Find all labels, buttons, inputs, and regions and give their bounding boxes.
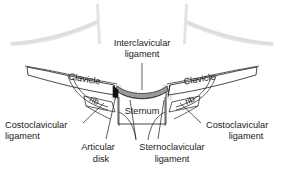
label-sternoclavicular-line2: ligament xyxy=(155,154,190,164)
label-costoclavicular-left: Costoclavicular ligament xyxy=(5,120,67,141)
label-sternoclavicular-line1: Sternoclavicular xyxy=(139,142,204,152)
label-costoclavicular-right-line2: ligament xyxy=(229,131,264,141)
label-rib-left: rib xyxy=(88,94,101,107)
label-rib-right: rib xyxy=(183,94,196,107)
label-costoclavicular-left-line2: ligament xyxy=(5,131,40,141)
label-interclavicular-line2: ligament xyxy=(125,49,160,59)
label-costoclavicular-right: Costoclavicular ligament xyxy=(206,120,268,141)
label-interclavicular-line1: Interclavicular xyxy=(114,38,171,48)
label-sternum: Sternum xyxy=(125,106,160,116)
label-articular-disk: Articular disk xyxy=(81,142,115,164)
label-articular-disk-line1: Articular xyxy=(81,142,115,152)
anatomical-figure: Interclavicular ligament Clavicle Clavic… xyxy=(0,0,284,170)
label-interclavicular-ligament: Interclavicular ligament xyxy=(114,38,171,59)
label-costoclavicular-right-line1: Costoclavicular xyxy=(206,120,268,130)
label-sternoclavicular-ligament: Sternoclavicular ligament xyxy=(139,142,204,164)
label-articular-disk-line2: disk xyxy=(93,154,110,164)
label-costoclavicular-left-line1: Costoclavicular xyxy=(5,120,67,130)
